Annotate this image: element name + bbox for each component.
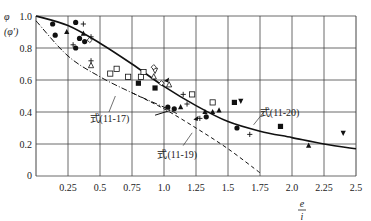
x-tick-label: 0.75 [123,182,141,193]
marker-circle [82,39,87,44]
y-tick-label: 0.4 [20,107,33,118]
marker-triangle [210,109,215,114]
marker-square [136,81,141,86]
x-tick-label: 2.25 [315,182,333,193]
y-tick-label: 0.2 [20,139,33,150]
annotation-leader [109,96,115,112]
marker-triangle [178,104,183,109]
marker-triangle-down-filled [238,99,243,104]
curve-annotation: 式(11-17) [90,112,130,125]
marker-triangle-down-filled [341,131,346,136]
marker-circle [77,36,82,41]
marker-circle [165,105,170,110]
marker-square-open [210,100,215,105]
curve-annotation: 式(11-20) [260,106,300,119]
x-axis-label-num: e [300,198,305,209]
x-tick-label: 1.5 [222,182,235,193]
y-tick-label: 0.6 [20,75,33,86]
marker-plus [88,58,93,63]
marker-circle [73,45,78,50]
marker-circle [53,33,58,38]
x-tick-label: 2.5 [350,182,363,193]
marker-circle [204,114,209,119]
marker-triangle [64,29,69,34]
chart: 0.250.50.751.01.251.51.752.02.252.500.20… [0,0,371,221]
y-tick-label: 0.8 [20,43,33,54]
curve-annotation: 式(11-19) [157,148,197,161]
axis-labels: 0.250.50.751.01.251.51.752.02.252.500.20… [4,11,362,221]
marker-triangle-open [151,74,156,79]
marker-square [232,100,237,105]
x-tick-label: 2.0 [286,182,299,193]
x-tick-label: 1.75 [251,182,269,193]
marker-square [278,124,283,129]
marker-circle [172,106,177,111]
marker-square-open [108,71,113,76]
marker-circle [73,20,78,25]
curve-segment [155,110,170,115]
marker-triangle [216,107,221,112]
x-tick-label: 1.0 [158,182,171,193]
marker-plus [81,21,86,26]
y-tick-label: 0 [27,170,32,181]
annotation-leader [254,112,264,125]
marker-triangle [306,143,311,148]
marker-square-open [114,66,119,71]
y-axis-label-alt: (φ') [4,26,19,38]
marker-square-open [141,69,146,74]
marker-square [152,85,157,90]
marker-plus [247,132,252,137]
x-tick-label: 0.25 [59,182,77,193]
y-axis-label: φ [4,11,10,22]
y-tick-label: 1.0 [20,11,33,22]
x-axis-label-den: i [301,211,304,221]
marker-circle [50,21,55,26]
marker-square-open [190,92,195,97]
marker-circle [234,125,239,130]
marker-plus [181,92,186,97]
x-tick-label: 1.25 [187,182,205,193]
marker-triangle-open [167,82,172,87]
x-tick-label: 0.5 [94,182,107,193]
marker-square-open [126,74,131,79]
